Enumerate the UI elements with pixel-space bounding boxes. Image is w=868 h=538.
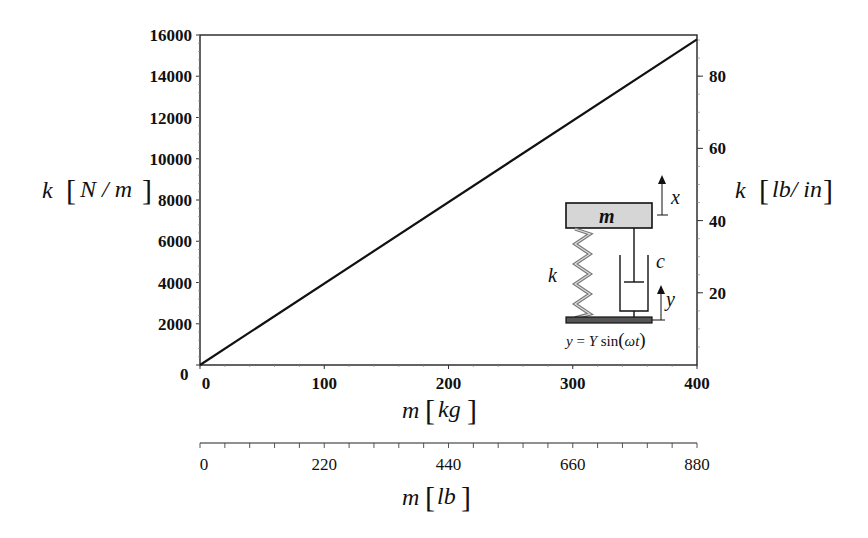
y-right-tick-label: 40 [709,212,726,231]
x-bottom-tick-label: 200 [436,374,462,393]
svg-text:m: m [402,397,419,423]
svg-text:c: c [656,250,665,272]
damper-icon [620,228,648,318]
y-axis-right-ticks: 20406080 [697,40,726,347]
svg-text:[: [ [425,393,435,426]
x-bottom-tick-label: 400 [684,374,710,393]
svg-text:]: ] [142,173,152,206]
y-right-tick-label: 80 [709,67,726,86]
y-left-tick-label: 8000 [158,191,192,210]
y-left-tick-label: 6000 [158,232,192,251]
y-left-tick-label: 0 [180,365,189,384]
svg-text:k: k [548,264,558,286]
x-bottom-tick-label: 0 [202,374,211,393]
x-bottom-tick-label: 300 [560,374,586,393]
svg-text:[: [ [759,173,769,206]
y-left-tick-label: 16000 [150,26,193,45]
svg-text:]: ] [467,393,477,426]
svg-text:y: y [664,288,675,311]
y-left-tick-label: 4000 [158,274,192,293]
y-left-tick-label: 2000 [158,315,192,334]
x-lb-tick-label: 660 [560,455,586,474]
y-right-tick-label: 20 [709,284,726,303]
x-axis-bottom-ticks: 0100200300400 [200,365,710,393]
svg-text:k: k [42,177,53,203]
x-axis-lb-title: m [ lb ] [402,480,471,513]
data-series-line [200,39,697,365]
svg-text:]: ] [823,173,833,206]
x-lb-tick-label: 880 [684,455,710,474]
y-left-tick-label: 12000 [150,109,193,128]
x-lb-tick-label: 220 [312,455,338,474]
x-lb-tick-label: 440 [436,455,462,474]
svg-text:N / m: N / m [79,176,132,202]
svg-text:m: m [402,484,419,510]
base-excitation-equation: y = Y sin(ωt) [564,329,646,351]
x-bottom-tick-label: 100 [312,374,338,393]
svg-text:k: k [735,177,746,203]
svg-text:m: m [599,205,615,227]
y-axis-left-ticks: 0200040006000800010000120001400016000 [150,26,201,384]
y-axis-right-title: k [ lb/ in ] [735,173,833,206]
x-axis-lb: 0220440660880 [200,443,710,474]
y-axis-left-title: k [ N / m ] [42,173,152,206]
y-axis-left-minor-ticks [198,35,200,365]
y-left-tick-label: 10000 [150,150,193,169]
y-right-tick-label: 60 [709,139,726,158]
svg-text:x: x [670,186,680,208]
svg-text:]: ] [461,480,471,513]
svg-text:lb/ in: lb/ in [772,176,822,202]
svg-text:lb: lb [437,483,456,509]
x-axis-bottom-title: m [ kg ] [402,393,477,426]
base-plate [566,317,652,323]
inset-diagram: m x k c y y = Y sin(ωt) [548,175,680,351]
chart-figure: 0200040006000800010000120001400016000 20… [0,0,868,538]
svg-text:kg: kg [438,396,461,422]
x-lb-tick-label: 0 [200,455,209,474]
svg-text:[: [ [66,173,76,206]
y-left-tick-label: 14000 [150,67,193,86]
svg-text:[: [ [425,480,435,513]
